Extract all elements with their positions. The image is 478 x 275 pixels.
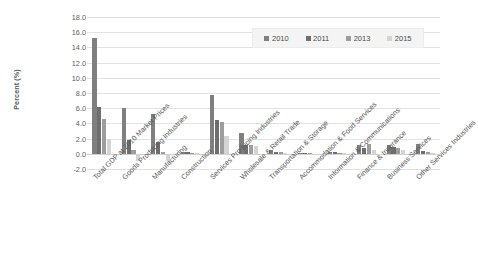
bar-2013: [337, 153, 341, 154]
legend-label: 2010: [272, 34, 289, 43]
bar-2013: [279, 152, 283, 154]
bar-2015: [401, 150, 405, 153]
bar-2013: [131, 150, 135, 154]
bar-2013: [396, 148, 400, 154]
legend-swatch-icon: [306, 36, 311, 41]
chart-legend: 2010201120132015: [252, 28, 424, 48]
y-axis-tick-label: 16.0: [58, 28, 86, 37]
gridline: [87, 169, 440, 170]
bar-2011: [97, 107, 101, 154]
bar-2011: [185, 152, 189, 154]
y-axis-tick-label: 8.0: [58, 89, 86, 98]
y-axis-tick-labels: 18.016.014.012.010.08.06.04.02.00.0-2.0: [58, 17, 86, 169]
y-axis-tick-label: 6.0: [58, 104, 86, 113]
bar-2015: [254, 146, 258, 154]
bar-2015: [107, 139, 111, 154]
bar-2010: [92, 38, 96, 154]
legend-item-2015[interactable]: 2015: [387, 34, 411, 43]
bar-2011: [421, 151, 425, 154]
legend-label: 2015: [395, 34, 412, 43]
y-axis-tick-label: 10.0: [58, 73, 86, 82]
legend-item-2013[interactable]: 2013: [346, 34, 370, 43]
bar-2013: [161, 152, 165, 154]
bar-2011: [303, 153, 307, 154]
legend-label: 2013: [354, 34, 371, 43]
y-axis-tick-label: 0.0: [58, 149, 86, 158]
y-axis-tick-label: 18.0: [58, 13, 86, 22]
legend-item-2010[interactable]: 2010: [264, 34, 288, 43]
bar-2011: [215, 120, 219, 153]
bar-2013: [249, 145, 253, 153]
bar-2011: [274, 152, 278, 154]
bar-2013: [308, 153, 312, 154]
y-axis-tick-label: -2.0: [58, 165, 86, 174]
bar-2013: [190, 153, 194, 154]
bar-group: [205, 17, 234, 169]
y-axis-title: Percent (%): [12, 55, 21, 125]
bar-group: [87, 17, 116, 169]
bar-2013: [426, 152, 430, 154]
bar-2011: [333, 152, 337, 154]
y-axis-tick-label: 2.0: [58, 134, 86, 143]
legend-item-2011[interactable]: 2011: [306, 34, 330, 43]
y-axis-tick-label: 14.0: [58, 43, 86, 52]
y-axis-tick-label: 4.0: [58, 119, 86, 128]
bar-2013: [220, 122, 224, 154]
legend-swatch-icon: [264, 36, 269, 41]
legend-label: 2011: [313, 34, 329, 43]
y-axis-tick-label: 12.0: [58, 58, 86, 67]
legend-swatch-icon: [346, 36, 351, 41]
legend-swatch-icon: [387, 36, 392, 41]
bar-2015: [224, 136, 228, 153]
bar-2013: [102, 119, 106, 154]
bar-2010: [210, 95, 214, 154]
